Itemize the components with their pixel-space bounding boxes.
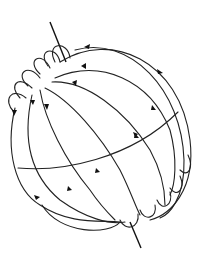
arrow-icon xyxy=(12,110,17,116)
arrow-icon xyxy=(81,63,86,69)
arrow-icon xyxy=(34,195,40,200)
sphere-field-diagram xyxy=(0,0,204,262)
pole-loop-6 xyxy=(9,93,26,112)
meridian-inner-2 xyxy=(52,82,165,205)
rim-loop-2 xyxy=(140,205,155,217)
meridian-inner-4 xyxy=(40,90,115,220)
meridian-outer-left xyxy=(11,108,120,222)
pole-loop-4 xyxy=(22,70,40,86)
rim-loop-4 xyxy=(170,176,182,192)
rim-loop-6 xyxy=(42,205,120,230)
meridian-inner-1 xyxy=(55,71,175,195)
arrow-icon xyxy=(151,105,156,110)
arrow-icon xyxy=(157,69,163,74)
pole-loop-1 xyxy=(52,46,70,62)
arrow-icon xyxy=(95,168,100,173)
diagram-canvas xyxy=(0,0,204,262)
rim-loop-5 xyxy=(180,155,190,173)
meridian-left-2 xyxy=(28,95,125,223)
meridian-inner-3 xyxy=(45,88,140,215)
arrow-icon xyxy=(67,186,72,191)
rotation-axis-lower xyxy=(130,222,141,248)
equator xyxy=(18,112,178,169)
rim-loop-1 xyxy=(120,214,138,227)
